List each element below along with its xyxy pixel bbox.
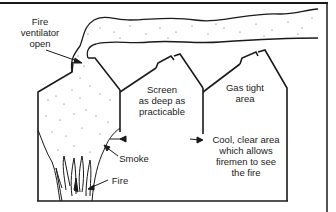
label-cool-clear-area: Cool, clear area which allows firemen to…	[208, 134, 284, 178]
label-smoke: Smoke	[114, 153, 154, 164]
label-screen: Screen as deep as practicable	[124, 84, 200, 117]
label-gas-tight-area: Gas tight area	[212, 82, 278, 104]
label-fire-ventilator: Fire ventilator open	[10, 16, 70, 49]
label-fire: Fire	[108, 175, 132, 186]
